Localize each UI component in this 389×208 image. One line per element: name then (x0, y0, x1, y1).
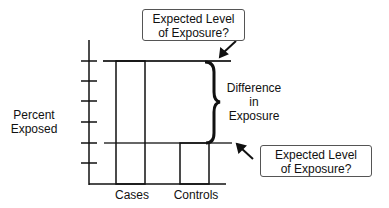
bottom-callout-line1: Expected Level (265, 148, 367, 162)
bottom-callout-line2: of Exposure? (265, 162, 367, 176)
x-label-controls: Controls (166, 188, 226, 202)
cases-bar (116, 61, 145, 184)
bottom-arrow-icon (237, 144, 253, 159)
brace-label: Difference in Exposure (224, 81, 284, 123)
bottom-callout: Expected Level of Exposure? (260, 145, 372, 177)
x-label-cases: Cases (110, 188, 154, 202)
top-callout-line2: of Exposure? (147, 26, 240, 40)
y-axis-label: Percent Exposed (4, 108, 64, 136)
controls-bar (180, 143, 209, 184)
curly-brace (205, 62, 220, 143)
top-callout: Expected Level of Exposure? (142, 9, 245, 41)
top-arrow-icon (220, 41, 236, 57)
top-callout-line1: Expected Level (147, 12, 240, 26)
